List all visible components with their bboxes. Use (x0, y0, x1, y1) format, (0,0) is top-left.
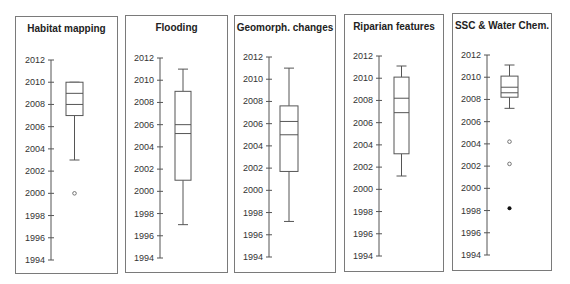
box-plot-chart: 2012201020082006200420022000199819961994 (235, 16, 337, 274)
y-tick-label: 1994 (461, 250, 481, 260)
y-tick-label: 2010 (25, 77, 45, 87)
box-plot-panel-ssc-water-chem: SSC & Water Chem. 2012201020082006200420… (452, 13, 552, 271)
iqr-box (66, 82, 83, 115)
y-tick-label: 2006 (353, 118, 373, 128)
y-tick-label: 1996 (25, 233, 45, 243)
y-tick-label: 2002 (25, 166, 45, 176)
y-tick-label: 1996 (243, 230, 263, 240)
iqr-box (501, 76, 518, 97)
y-tick-label: 1998 (461, 206, 481, 216)
y-tick-label: 2002 (461, 161, 481, 171)
y-tick-label: 2004 (353, 140, 373, 150)
y-tick-label: 1994 (25, 255, 45, 265)
y-tick-label: 2000 (25, 188, 45, 198)
y-tick-label: 2008 (243, 96, 263, 106)
y-tick-label: 2010 (243, 74, 263, 84)
y-tick-label: 2006 (134, 120, 154, 130)
y-tick-label: 2006 (25, 122, 45, 132)
y-tick-label: 2004 (25, 144, 45, 154)
y-tick-label: 2000 (243, 185, 263, 195)
y-tick-label: 2000 (353, 184, 373, 194)
y-tick-label: 2008 (353, 95, 373, 105)
box-plot-chart: 2012201020082006200420022000199819961994 (126, 16, 229, 274)
y-tick-label: 2010 (353, 73, 373, 83)
iqr-box (175, 91, 191, 180)
box-plot-panel-flooding: Flooding 2012201020082006200420022000199… (125, 15, 228, 273)
y-tick-label: 2006 (243, 119, 263, 129)
box-plot-panel-geomorph-changes: Geomorph. changes 2012201020082006200420… (234, 15, 336, 273)
y-tick-label: 1994 (353, 251, 373, 261)
y-tick-label: 1998 (353, 207, 373, 217)
y-tick-label: 1998 (243, 208, 263, 218)
y-tick-label: 1998 (25, 211, 45, 221)
y-tick-label: 2010 (134, 75, 154, 85)
y-tick-label: 2012 (353, 51, 373, 61)
y-tick-label: 2004 (461, 139, 481, 149)
box-plot-panel-habitat-mapping: Habitat mapping 201220102008200620042002… (15, 16, 118, 274)
y-tick-label: 2012 (134, 53, 154, 63)
y-tick-label: 2000 (134, 186, 154, 196)
outlier-open-marker (73, 192, 77, 196)
y-tick-label: 2004 (134, 142, 154, 152)
y-tick-label: 2008 (134, 97, 154, 107)
outlier-open-marker (508, 162, 512, 166)
box-plot-chart: 2012201020082006200420022000199819961994 (453, 14, 553, 272)
y-tick-label: 2002 (134, 164, 154, 174)
y-tick-label: 2008 (461, 94, 481, 104)
outlier-open-marker (508, 140, 512, 144)
y-tick-label: 1996 (461, 228, 481, 238)
y-tick-label: 2002 (243, 163, 263, 173)
iqr-box (280, 106, 298, 172)
y-tick-label: 1998 (134, 209, 154, 219)
y-tick-label: 2006 (461, 117, 481, 127)
y-tick-label: 2012 (461, 50, 481, 60)
y-tick-label: 1996 (134, 231, 154, 241)
iqr-box (394, 77, 409, 154)
y-tick-label: 2002 (353, 162, 373, 172)
y-tick-label: 2000 (461, 183, 481, 193)
y-tick-label: 1996 (353, 229, 373, 239)
box-plot-panel-riparian-features: Riparian features 2012201020082006200420… (344, 14, 444, 272)
y-tick-label: 2012 (25, 55, 45, 65)
y-tick-label: 2010 (461, 72, 481, 82)
box-plot-chart: 2012201020082006200420022000199819961994 (16, 17, 119, 275)
outlier-filled-marker (508, 206, 512, 210)
y-tick-label: 1994 (243, 252, 263, 262)
y-tick-label: 2004 (243, 141, 263, 151)
y-tick-label: 2012 (243, 52, 263, 62)
y-tick-label: 2008 (25, 99, 45, 109)
y-tick-label: 1994 (134, 253, 154, 263)
box-plot-chart: 2012201020082006200420022000199819961994 (345, 15, 445, 273)
